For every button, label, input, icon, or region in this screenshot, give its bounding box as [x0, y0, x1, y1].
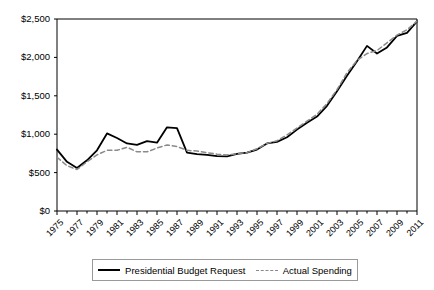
axis-ticks [54, 19, 417, 215]
y-axis-tick-label: $1,500 [0, 91, 50, 101]
legend-swatch-solid-line [98, 269, 120, 271]
legend-entry-actual-spending: Actual Spending [256, 265, 352, 276]
y-axis-tick-label: $2,000 [0, 52, 50, 62]
axes [57, 19, 417, 211]
chart-legend: Presidential Budget Request Actual Spend… [92, 259, 358, 281]
legend-label-actual-spending: Actual Spending [283, 265, 352, 276]
legend-entry-presidential-budget-request: Presidential Budget Request [98, 265, 245, 276]
y-axis-tick-label: $2,500 [0, 14, 50, 24]
series-line-actual-spending [57, 21, 417, 169]
chart-container: $0$500$1,000$1,500$2,000$2,500 197519771… [0, 0, 434, 290]
y-axis-tick-label: $500 [0, 168, 50, 178]
legend-label-presidential-budget-request: Presidential Budget Request [125, 265, 245, 276]
y-axis-tick-label: $0 [0, 206, 50, 216]
y-axis-tick-label: $1,000 [0, 129, 50, 139]
data-series [57, 21, 417, 169]
series-line-presidential-budget-request [57, 21, 417, 168]
plot-area [0, 0, 434, 290]
legend-swatch-dashed-line [256, 270, 278, 271]
